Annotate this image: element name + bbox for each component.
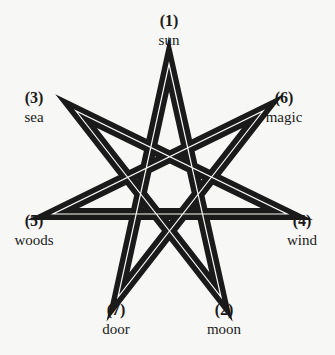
point-7-number: (7) bbox=[76, 302, 156, 318]
point-7-word: door bbox=[76, 322, 156, 337]
point-6-label: (6) magic bbox=[244, 90, 324, 125]
point-1-label: (1) sun bbox=[129, 13, 209, 48]
point-2-number: (2) bbox=[184, 302, 264, 318]
point-1-word: sun bbox=[129, 33, 209, 48]
point-2-label: (2) moon bbox=[184, 302, 264, 337]
heptagram-diagram: (1) sun (3) sea (6) magic (5) woods (4) … bbox=[0, 0, 335, 355]
point-6-number: (6) bbox=[244, 90, 324, 106]
point-3-label: (3) sea bbox=[0, 90, 74, 125]
heptagram-star-icon bbox=[0, 0, 335, 355]
point-5-word: woods bbox=[0, 233, 74, 248]
point-4-number: (4) bbox=[262, 213, 335, 229]
point-1-number: (1) bbox=[129, 13, 209, 29]
point-6-word: magic bbox=[244, 110, 324, 125]
point-5-label: (5) woods bbox=[0, 213, 74, 248]
point-4-word: wind bbox=[262, 233, 335, 248]
point-3-number: (3) bbox=[0, 90, 74, 106]
point-5-number: (5) bbox=[0, 213, 74, 229]
point-4-label: (4) wind bbox=[262, 213, 335, 248]
point-7-label: (7) door bbox=[76, 302, 156, 337]
point-2-word: moon bbox=[184, 322, 264, 337]
point-3-word: sea bbox=[0, 110, 74, 125]
